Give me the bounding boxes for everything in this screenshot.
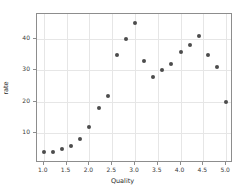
x-tick-mark (134, 162, 135, 165)
x-tick-label: 4.0 (175, 167, 185, 173)
data-point (115, 53, 119, 57)
x-tick-label: 5.0 (220, 167, 230, 173)
x-tick-mark (43, 162, 44, 165)
data-point (179, 50, 183, 54)
x-tick-mark (157, 162, 158, 165)
data-point (169, 62, 173, 66)
y-axis-label: rate (3, 81, 10, 94)
data-point (106, 94, 110, 98)
data-point (188, 43, 192, 47)
scatter-plot-figure: 1.01.52.02.53.03.54.04.55.0 10203040 Qua… (0, 0, 245, 193)
x-tick-mark (225, 162, 226, 165)
data-point (87, 125, 91, 129)
y-tick-mark (33, 101, 36, 102)
plot-area (36, 13, 232, 162)
y-tick-mark (33, 132, 36, 133)
data-point (224, 100, 228, 104)
x-tick-label: 3.5 (152, 167, 162, 173)
y-tick-label: 10 (22, 129, 30, 135)
y-tick-label: 30 (22, 66, 30, 72)
x-tick-mark (88, 162, 89, 165)
x-tick-label: 2.0 (84, 167, 94, 173)
x-tick-label: 1.5 (61, 167, 71, 173)
x-tick-mark (180, 162, 181, 165)
data-point (215, 65, 219, 69)
x-tick-label: 2.5 (106, 167, 116, 173)
y-tick-mark (33, 69, 36, 70)
data-point (160, 68, 164, 72)
data-point (133, 21, 137, 25)
x-tick-mark (111, 162, 112, 165)
data-point (124, 37, 128, 41)
data-point (69, 144, 73, 148)
x-tick-label: 4.5 (198, 167, 208, 173)
x-tick-label: 1.0 (38, 167, 48, 173)
data-point (42, 150, 46, 154)
x-tick-mark (66, 162, 67, 165)
data-point (206, 53, 210, 57)
x-axis-label: Quality (0, 178, 245, 185)
y-tick-mark (33, 38, 36, 39)
y-tick-label: 40 (22, 35, 30, 41)
data-point (51, 150, 55, 154)
data-point (142, 59, 146, 63)
data-point (197, 34, 201, 38)
data-point (78, 137, 82, 141)
y-tick-label: 20 (22, 98, 30, 104)
data-point (97, 106, 101, 110)
data-point (60, 147, 64, 151)
data-points-layer (37, 14, 231, 161)
x-tick-label: 3.0 (129, 167, 139, 173)
x-tick-mark (202, 162, 203, 165)
data-point (151, 75, 155, 79)
